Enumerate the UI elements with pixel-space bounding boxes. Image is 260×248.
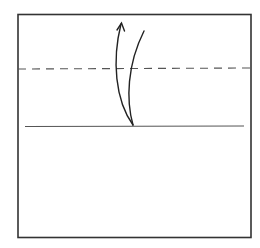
origami-diagram	[0, 0, 260, 248]
crease-line	[25, 126, 244, 127]
